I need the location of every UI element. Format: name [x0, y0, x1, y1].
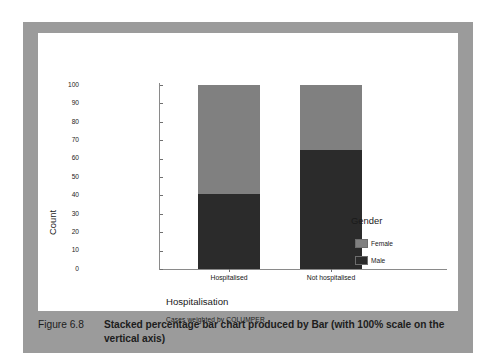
figure-frame: 0102030405060708090100 Count Hospitalise… — [23, 22, 473, 353]
y-axis-tick — [160, 214, 163, 215]
bar-segment-female[interactable] — [300, 85, 362, 150]
y-axis-tick — [160, 85, 163, 86]
y-axis-tick — [160, 103, 163, 104]
legend-title: Gender — [351, 215, 382, 226]
legend-label-female: Female — [371, 240, 393, 247]
y-axis-tick — [160, 195, 163, 196]
figure-page: 0102030405060708090100 Count Hospitalise… — [0, 0, 496, 364]
figure-number: Figure 6.8 — [38, 318, 84, 332]
legend-swatch-female — [355, 239, 368, 248]
chart-plate: 0102030405060708090100 Count Hospitalise… — [38, 33, 458, 311]
y-axis-tick — [160, 122, 163, 123]
x-axis-label-hospitalised: Hospitalised — [174, 274, 284, 281]
y-axis-tick — [160, 159, 163, 160]
bar-segment-male[interactable] — [300, 150, 362, 269]
x-axis-label-not-hospitalised: Not hospitalised — [276, 274, 386, 281]
y-axis-tick — [160, 232, 163, 233]
y-axis-tick — [160, 177, 163, 178]
y-axis-tick-label: 90 — [45, 100, 79, 107]
legend-label-male: Male — [371, 257, 385, 264]
y-axis-title: Count — [47, 193, 58, 253]
bar-segment-female[interactable] — [198, 85, 260, 194]
bar-segment-male[interactable] — [198, 194, 260, 269]
y-axis-tick-label: 0 — [45, 266, 79, 273]
y-axis-tick-label: 50 — [45, 174, 79, 181]
figure-caption-text: Stacked percentage bar chart produced by… — [104, 318, 456, 345]
y-axis-tick-label: 100 — [45, 82, 79, 89]
y-axis-tick — [160, 269, 163, 270]
y-axis-tick-label: 60 — [45, 155, 79, 162]
legend-swatch-male — [355, 256, 368, 265]
y-axis-tick-label: 70 — [45, 137, 79, 144]
x-axis-line — [159, 269, 447, 270]
y-axis-tick — [160, 140, 163, 141]
x-axis-title: Hospitalisation — [166, 296, 228, 307]
x-axis-tick — [331, 269, 332, 272]
y-axis-tick-label: 80 — [45, 119, 79, 126]
x-axis-tick — [229, 269, 230, 272]
y-axis-tick — [160, 251, 163, 252]
stacked-bar-chart: 0102030405060708090100 Count Hospitalise… — [38, 33, 458, 311]
